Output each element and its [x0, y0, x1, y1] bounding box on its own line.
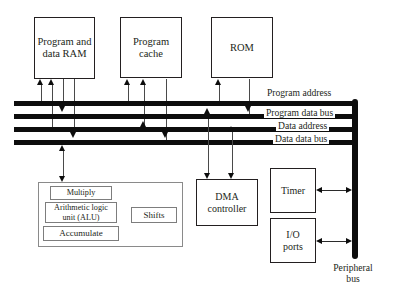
connector-ram-data-address: [52, 85, 53, 130]
arrowhead-cache-data-data-down: [162, 132, 168, 138]
arrowhead-alu-data-data-up: [59, 145, 65, 151]
block-label-io-ports: I/O ports: [283, 229, 303, 251]
arrowhead-rom-program-data-down: [245, 106, 251, 112]
block-label-dma-controller: DMA controller: [208, 191, 247, 213]
block-multiply: Multiply: [50, 186, 112, 200]
connector-timer-peripheral: [322, 190, 348, 191]
arrowhead-io-right: [346, 238, 352, 244]
block-accumulate: Accumulate: [43, 226, 119, 241]
arrowhead-ram-data-data-down: [70, 132, 76, 138]
arrowhead-io-left: [316, 238, 322, 244]
connector-dma-data-address: [232, 132, 233, 173]
bus-label-program-data-bus: Program data bus: [264, 108, 335, 118]
arrowhead-ram-program-data-down: [59, 106, 65, 112]
block-io-ports: I/O ports: [270, 218, 316, 263]
block-label-multiply: Multiply: [67, 188, 96, 197]
block-rom: ROM: [211, 17, 273, 78]
bus-label-program-address: Program address: [265, 88, 333, 98]
block-dma-controller: DMA controller: [196, 179, 258, 226]
bus-label-peripheral: Peripheral bus: [322, 262, 384, 284]
block-timer: Timer: [270, 168, 316, 213]
arrowhead-ram-data-address-up: [48, 79, 54, 85]
bus-label-data-data-bus: Data data bus: [273, 134, 329, 144]
bus-program-address: [14, 101, 357, 106]
connector-alu-data-data: [63, 151, 64, 177]
block-label-rom: ROM: [230, 42, 254, 54]
arrowhead-cache-program-address-up: [124, 79, 130, 85]
arrowhead-ram-program-address-up: [37, 79, 43, 85]
block-label-program-cache: Program cache: [133, 36, 169, 60]
arrowhead-alu-data-data-down: [59, 176, 65, 182]
block-label-program-and-data-ram: Program and data RAM: [38, 36, 92, 60]
arrowhead-dma-data-address-up: [228, 126, 234, 132]
dsp-block-diagram: Program and data RAM Program cache ROM P…: [0, 0, 396, 291]
bus-peripheral: [352, 99, 358, 259]
block-shifts: Shifts: [131, 207, 177, 223]
block-label-arithmetic-logic-unit: Arithmetic logic unit (ALU): [54, 203, 108, 221]
block-label-shifts: Shifts: [143, 210, 164, 220]
connector-io-peripheral: [322, 241, 348, 242]
arrowhead-cache-data-address-bus-up: [140, 121, 146, 127]
arrowhead-timer-left: [316, 187, 322, 193]
block-label-accumulate: Accumulate: [59, 228, 102, 238]
connector-dma-program-data: [208, 119, 209, 173]
arrowhead-dma-program-data-bus-up: [204, 108, 210, 114]
arrowhead-dma-program-data-down: [204, 173, 210, 179]
arrowhead-cache-data-address-up: [140, 79, 146, 85]
block-label-timer: Timer: [281, 185, 305, 196]
arrowhead-timer-right: [346, 187, 352, 193]
block-program-cache: Program cache: [120, 17, 182, 78]
block-program-and-data-ram: Program and data RAM: [34, 17, 95, 79]
bus-label-data-address: Data address: [276, 121, 329, 131]
arrowhead-dma-data-address-down: [228, 173, 234, 179]
block-arithmetic-logic-unit: Arithmetic logic unit (ALU): [45, 202, 117, 223]
arrowhead-rom-program-address-up: [215, 79, 221, 85]
